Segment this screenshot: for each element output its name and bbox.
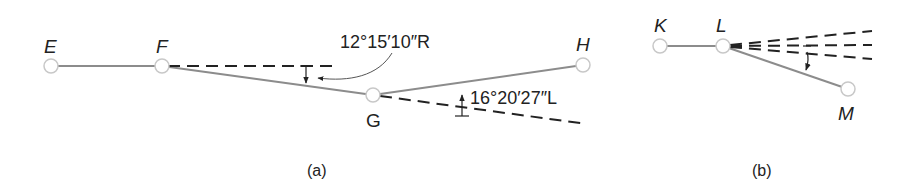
traverse-deflection-diagram: E F G H 12°15′10″R 16°20′27″L (a) K L M …: [0, 0, 910, 190]
angle-label-G: 16°20′27″L: [470, 88, 557, 108]
node-M: [841, 82, 855, 96]
node-L: [716, 39, 730, 53]
figure-b: K L M (b): [653, 15, 872, 179]
node-F: [155, 59, 169, 73]
figure-a: E F G H 12°15′10″R 16°20′27″L (a): [44, 32, 590, 179]
label-K: K: [654, 15, 668, 36]
label-M: M: [838, 103, 854, 124]
fan-line-upper: [730, 31, 872, 45]
label-L: L: [716, 15, 727, 36]
deflection-arrow-L-icon: [806, 52, 808, 70]
caption-a: (a): [307, 162, 327, 179]
caption-b: (b): [752, 162, 772, 179]
label-E: E: [44, 36, 57, 57]
fan-line-lower: [730, 47, 872, 59]
node-E: [44, 59, 58, 73]
angle-label-F: 12°15′10″R: [340, 32, 430, 52]
node-K: [653, 39, 667, 53]
line-FG: [162, 66, 373, 95]
node-G: [366, 88, 380, 102]
line-LM: [723, 46, 848, 89]
label-H: H: [576, 34, 590, 55]
label-G: G: [366, 110, 381, 131]
node-H: [576, 58, 590, 72]
label-F: F: [156, 36, 169, 57]
fan-line-middle: [730, 45, 872, 46]
